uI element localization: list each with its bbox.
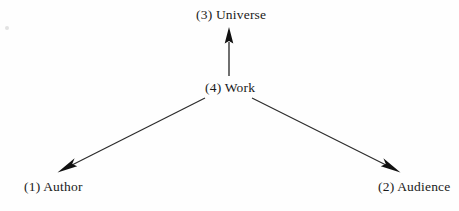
node-label-universe: (3) Universe — [196, 8, 266, 22]
node-label-author: (1) Author — [24, 180, 83, 194]
arrow-work-to-audience — [252, 98, 401, 173]
node-label-work: (4) Work — [205, 81, 255, 95]
arrow-work-to-author — [58, 98, 206, 173]
node-label-audience: (2) Audience — [378, 180, 451, 194]
diagram-canvas: (3) Universe (4) Work (1) Author (2) Aud… — [0, 0, 459, 211]
arrow-work-to-universe — [225, 27, 234, 76]
scan-artifact-speck — [5, 26, 9, 30]
